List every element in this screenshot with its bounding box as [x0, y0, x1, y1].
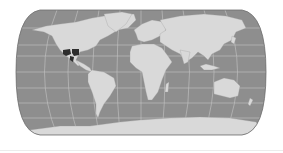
divider [0, 150, 283, 151]
world-map [0, 0, 283, 153]
